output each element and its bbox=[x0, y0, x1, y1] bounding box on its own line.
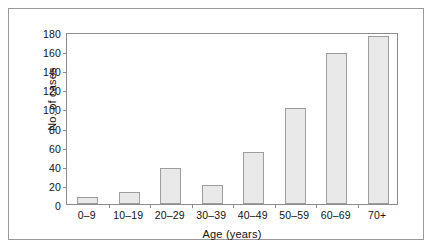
x-tick-label: 10–19 bbox=[113, 209, 143, 221]
x-tick-mark bbox=[109, 204, 110, 208]
bar bbox=[326, 53, 347, 204]
x-tick-mark bbox=[233, 204, 234, 208]
x-tick-mark bbox=[192, 204, 193, 208]
x-tick-label: 0–9 bbox=[78, 209, 96, 221]
y-tick-label: 0 bbox=[55, 200, 67, 212]
bar-series bbox=[67, 34, 397, 204]
x-tick-mark bbox=[316, 204, 317, 208]
plot-area: 020406080100120140160180 bbox=[66, 33, 398, 205]
bar bbox=[243, 152, 264, 204]
x-tick-label: 60–69 bbox=[321, 209, 351, 221]
x-tick-mark bbox=[275, 204, 276, 208]
figure-container: No. of cases 020406080100120140160180 Ag… bbox=[0, 0, 433, 249]
x-tick-label: 30–39 bbox=[196, 209, 226, 221]
bar bbox=[285, 108, 306, 205]
x-tick-mark bbox=[150, 204, 151, 208]
bar bbox=[77, 197, 98, 204]
x-tick-mark bbox=[358, 204, 359, 208]
y-tick-label: 180 bbox=[43, 28, 67, 40]
x-tick-label: 40–49 bbox=[238, 209, 268, 221]
figure-outer-frame: No. of cases 020406080100120140160180 Ag… bbox=[8, 8, 424, 240]
bar bbox=[368, 36, 389, 204]
bar bbox=[202, 185, 223, 204]
x-axis-title: Age (years) bbox=[66, 228, 398, 240]
x-tick-label: 20–29 bbox=[155, 209, 185, 221]
x-tick-label: 50–59 bbox=[279, 209, 309, 221]
x-tick-label: 70+ bbox=[368, 209, 386, 221]
bar bbox=[160, 168, 181, 204]
bar bbox=[119, 192, 140, 204]
